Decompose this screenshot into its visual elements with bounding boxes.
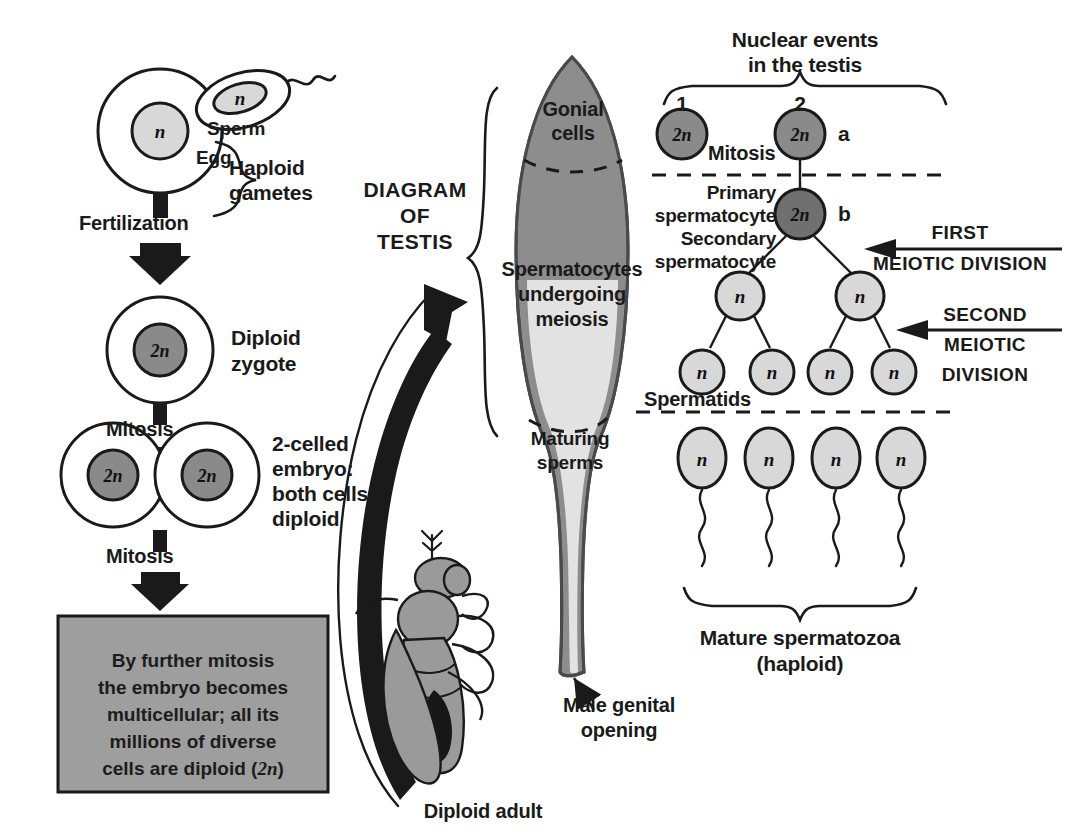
summary-box-text: By further mitosis the embryo becomes mu…	[58, 648, 328, 783]
svg-text:2n: 2n	[789, 205, 809, 225]
svg-text:n: n	[767, 362, 778, 383]
diagram-of-testis-line1: DIAGRAM	[363, 178, 466, 202]
figure-canvas: n n 2n	[0, 0, 1082, 839]
mitosis-label-2: Mitosis	[106, 545, 174, 567]
mature-spermatozoa-brace	[684, 588, 916, 620]
svg-text:n: n	[889, 362, 900, 383]
mature-spermatozoa-line2: (haploid)	[757, 652, 844, 676]
spermatozoon-4: n	[877, 428, 925, 566]
summary-line-3: multicellular; all its	[58, 702, 328, 729]
spermatocytes-line2: undergoing	[518, 283, 626, 305]
male-genital-opening-line2: opening	[581, 719, 657, 741]
svg-text:n: n	[825, 362, 836, 383]
stage-number-2: 2	[794, 92, 805, 116]
spermatids-label: Spermatids	[644, 388, 751, 410]
embryo-cell-2-label: 2n	[196, 466, 216, 486]
nuclear-events-header-line2: in the testis	[748, 53, 862, 77]
first-meiotic-division-line2: MEIOTIC DIVISION	[873, 253, 1047, 274]
diagram-of-testis-line2: OF	[400, 204, 430, 228]
mitosis-label-right: Mitosis	[708, 142, 776, 164]
sperm-nucleus-label: n	[235, 88, 246, 109]
first-meiotic-division-line1: FIRST	[932, 222, 989, 243]
cell-primary-spermatocyte: 2n	[775, 189, 825, 239]
svg-text:n: n	[735, 286, 746, 307]
svg-text:2n: 2n	[789, 125, 809, 145]
summary-line-5-italic: 2n	[257, 758, 277, 779]
nuclear-events-header-line1: Nuclear events	[732, 28, 879, 52]
second-meiotic-division-line3: DIVISION	[942, 364, 1029, 385]
summary-line-1: By further mitosis	[58, 648, 328, 675]
fly-to-testis-arrow-head	[424, 284, 468, 342]
mitosis-label-1: Mitosis	[106, 418, 174, 440]
embryo-label-line4: diploid	[272, 507, 339, 531]
cell-mitosis-left: 2n	[657, 109, 707, 159]
egg-nucleus-label: n	[155, 121, 166, 142]
spermatocytes-line3: meiosis	[535, 308, 608, 330]
summary-line-4: millions of diverse	[58, 729, 328, 756]
diagram-of-testis-line3: TESTIS	[377, 230, 453, 254]
embryo-label-line2: embryo:	[272, 457, 353, 481]
spermatozoon-2: n	[745, 428, 793, 566]
fertilization-arrow	[129, 192, 191, 285]
sperm-label: Sperm	[207, 118, 265, 139]
haploid-gametes-label-line2: gametes	[229, 181, 313, 205]
cell-spermatid-2: n	[750, 350, 794, 394]
male-genital-opening-line1: Male genital	[563, 694, 675, 716]
cell-spermatid-3: n	[808, 350, 852, 394]
svg-text:n: n	[896, 449, 907, 470]
haploid-gametes-label-line1: Haploid	[229, 156, 305, 180]
svg-text:n: n	[697, 362, 708, 383]
summary-line-2: the embryo becomes	[58, 675, 328, 702]
svg-text:n: n	[855, 286, 866, 307]
cell-secondary-spermatocyte-1: n	[716, 272, 764, 320]
maturing-sperms-line2: sperms	[537, 452, 603, 473]
fertilization-label: Fertilization	[79, 212, 189, 234]
egg-label: Egg	[196, 147, 231, 168]
second-meiotic-division-line1: SECOND	[943, 304, 1027, 325]
row-letter-b: b	[838, 202, 851, 226]
cell-mitosis-right: 2n	[775, 109, 825, 159]
row-letter-a: a	[838, 122, 849, 146]
maturing-sperms-line1: Maturing	[531, 428, 610, 449]
embryo-label-line3: both cells	[272, 482, 368, 506]
svg-text:2n: 2n	[671, 125, 691, 145]
stage-number-1: 1	[676, 92, 687, 116]
second-meiotic-division-line2: MEIOTIC	[944, 334, 1026, 355]
testis-brace	[468, 88, 497, 436]
testis-diagram	[516, 57, 628, 676]
gonial-cells-line2: cells	[551, 122, 594, 144]
zygote-cell: 2n	[107, 297, 213, 403]
embryo-cell-1-label: 2n	[102, 466, 122, 486]
mature-spermatozoa-line1: Mature spermatozoa	[700, 626, 901, 650]
spermatozoon-3: n	[812, 428, 860, 566]
gonial-cells-line1: Gonial	[542, 98, 603, 120]
cell-secondary-spermatocyte-2: n	[836, 272, 884, 320]
zygote-nucleus-label: 2n	[149, 341, 169, 361]
embryo-label-line1: 2-celled	[272, 432, 349, 456]
primary-spermatocyte-line2: spermatocyte	[655, 205, 776, 226]
mitosis-arrow-2	[131, 530, 189, 611]
summary-line-5: cells are diploid (2n)	[58, 756, 328, 783]
summary-line-5-pre: cells are diploid (	[102, 758, 257, 779]
primary-spermatocyte-line1: Primary	[707, 182, 776, 203]
diploid-zygote-label-line2: zygote	[231, 352, 296, 376]
spermatocytes-line1: Spermatocytes	[502, 258, 643, 280]
secondary-spermatocyte-line2: spermatocyte	[655, 251, 776, 272]
cell-spermatid-4: n	[872, 350, 916, 394]
svg-text:n: n	[764, 449, 775, 470]
diploid-zygote-label-line1: Diploid	[231, 326, 301, 350]
svg-text:n: n	[831, 449, 842, 470]
summary-line-5-post: )	[277, 758, 283, 779]
diploid-adult-label: Diploid adult	[424, 800, 543, 822]
egg-cell: n	[98, 69, 222, 193]
secondary-spermatocyte-line1: Secondary	[681, 228, 776, 249]
svg-text:n: n	[697, 449, 708, 470]
spermatozoon-1: n	[678, 428, 726, 566]
